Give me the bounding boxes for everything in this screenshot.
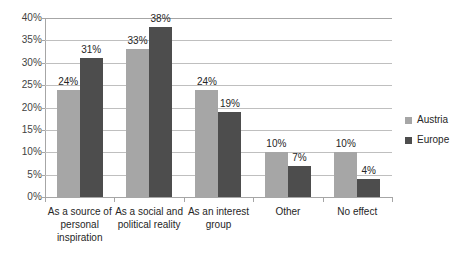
x-axis-category-label-line: personal (41, 218, 118, 231)
legend-item-label: Austria (417, 115, 448, 125)
x-axis-category-label: Other (249, 205, 326, 218)
bar-europe (288, 166, 311, 197)
legend-item-europe[interactable]: Europe (405, 130, 467, 150)
bar-europe (80, 58, 103, 197)
y-axis-tick-label: 15% (4, 125, 42, 135)
y-axis: 40%35%30%25%20%15%10%5%0% (0, 0, 42, 259)
x-axis-category-label: As a source ofpersonalinspiration (41, 205, 118, 244)
bar-group: 10%7% (253, 18, 322, 197)
x-axis-tick-mark (392, 197, 393, 202)
y-axis-tick-label: 40% (4, 13, 42, 23)
bar-group: 10%4% (323, 18, 392, 197)
y-axis-tick-label: 20% (4, 103, 42, 113)
plot-area: 24%31%33%38%24%19%10%7%10%4% (45, 18, 392, 197)
legend-swatch-icon (405, 137, 412, 144)
x-axis-category-label: No effect (319, 205, 396, 218)
x-axis-category-label: As a social andpolitical reality (110, 205, 187, 231)
x-axis-category-label-line: inspiration (41, 231, 118, 244)
bar-value-label: 19% (212, 99, 247, 109)
y-axis-tick-label: 35% (4, 35, 42, 45)
legend-item-label: Europe (417, 135, 449, 145)
x-axis-line (45, 197, 392, 198)
legend-item-austria[interactable]: Austria (405, 110, 467, 130)
bar-value-label: 4% (351, 166, 386, 176)
x-axis-tick-mark (184, 197, 185, 202)
bar-austria (126, 49, 149, 197)
x-axis-tick-mark (45, 197, 46, 202)
bar-value-label: 38% (143, 14, 178, 24)
y-axis-tick-label: 10% (4, 147, 42, 157)
bar-value-label: 31% (74, 45, 109, 55)
bar-value-label: 10% (328, 139, 363, 149)
x-axis-category-label-line: political reality (110, 218, 187, 231)
bar-value-label: 7% (282, 153, 317, 163)
x-axis-category-label: As an interestgroup (180, 205, 257, 231)
x-axis-category-label-line: No effect (319, 205, 396, 218)
bar-chart: 40%35%30%25%20%15%10%5%0% 24%31%33%38%24… (0, 0, 467, 259)
bar-value-label: 10% (259, 139, 294, 149)
bar-europe (149, 27, 172, 197)
x-axis-category-label-line: Other (249, 205, 326, 218)
bar-value-label: 24% (189, 77, 224, 87)
y-axis-tick-label: 0% (4, 192, 42, 202)
bar-europe (357, 179, 380, 197)
y-axis-tick-label: 5% (4, 170, 42, 180)
x-axis-category-label-line: As an interest (180, 205, 257, 218)
chart-legend: AustriaEurope (405, 110, 467, 150)
x-axis-category-label-line: group (180, 218, 257, 231)
bar-group: 24%31% (45, 18, 114, 197)
x-axis-category-label-line: As a source of (41, 205, 118, 218)
bar-group: 33%38% (114, 18, 183, 197)
x-axis-tick-mark (323, 197, 324, 202)
x-axis-tick-mark (114, 197, 115, 202)
bar-europe (218, 112, 241, 197)
bar-group: 24%19% (184, 18, 253, 197)
y-axis-tick-label: 25% (4, 80, 42, 90)
x-axis-category-label-line: As a social and (110, 205, 187, 218)
y-axis-tick-label: 30% (4, 58, 42, 68)
x-axis-tick-mark (253, 197, 254, 202)
bar-austria (57, 90, 80, 197)
legend-swatch-icon (405, 117, 412, 124)
